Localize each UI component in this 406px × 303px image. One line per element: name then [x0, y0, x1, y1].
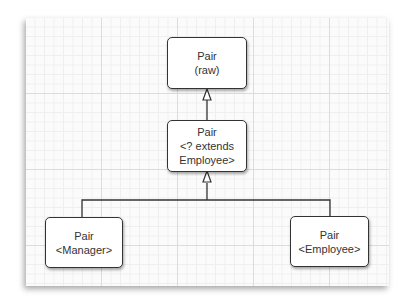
- inheritance-arrow-icon: [203, 171, 211, 182]
- node-pair-employee: Pair <Employee>: [290, 216, 369, 267]
- inheritance-arrow-icon: [203, 89, 211, 100]
- node-label-line: Pair: [197, 49, 217, 63]
- node-pair-extends-employee: Pair <? extends Employee>: [167, 120, 247, 172]
- node-label-line: <Manager>: [56, 243, 112, 257]
- node-label-line: Pair: [197, 125, 217, 139]
- node-label-line: Employee>: [179, 153, 234, 167]
- node-label-line: (raw): [194, 63, 219, 77]
- node-label-line: <? extends: [180, 139, 234, 153]
- node-pair-manager: Pair <Manager>: [45, 217, 123, 268]
- node-label-line: <Employee>: [299, 242, 361, 256]
- node-pair-raw: Pair (raw): [167, 37, 247, 89]
- node-label-line: Pair: [74, 229, 94, 243]
- node-label-line: Pair: [320, 228, 340, 242]
- edge-children-bus: [82, 200, 330, 217]
